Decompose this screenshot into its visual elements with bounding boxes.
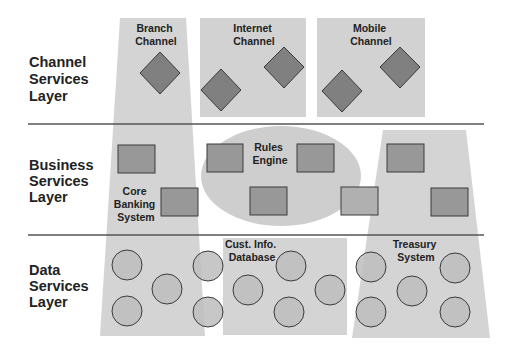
- branch-channel-label: Branch Channel: [135, 22, 177, 47]
- data-store: [315, 275, 345, 305]
- data-store: [276, 251, 306, 281]
- internet-channel-label: Internet Channel: [233, 22, 275, 47]
- data-store: [356, 297, 386, 327]
- data-store: [356, 252, 386, 282]
- service-box: [161, 188, 198, 216]
- architecture-diagram: Channel Services Layer Business Services…: [0, 0, 510, 352]
- data-store: [193, 297, 223, 327]
- data-store: [397, 276, 427, 306]
- data-store: [274, 297, 304, 327]
- service-box: [118, 145, 155, 173]
- data-layer-label: Data Services Layer: [29, 262, 93, 310]
- service-box: [297, 144, 334, 172]
- service-box: [250, 187, 287, 215]
- rules-engine-label: Rules Engine: [252, 141, 287, 166]
- mobile-channel-label: Mobile Channel: [350, 22, 392, 47]
- data-store: [233, 275, 263, 305]
- business-layer-label: Business Services Layer: [29, 157, 98, 205]
- data-store: [112, 250, 142, 280]
- data-store: [112, 296, 142, 326]
- service-box: [431, 188, 468, 216]
- cust-info-database-label: Cust. Info. Database: [225, 238, 279, 263]
- service-box: [207, 144, 243, 172]
- data-store: [193, 251, 223, 281]
- channel-layer-label: Channel Services Layer: [29, 54, 93, 104]
- data-store: [440, 297, 470, 327]
- service-box: [387, 144, 424, 172]
- treasury-system-label: Treasury System: [393, 238, 440, 263]
- data-store: [152, 274, 182, 304]
- service-box: [341, 187, 378, 215]
- data-store: [440, 253, 470, 283]
